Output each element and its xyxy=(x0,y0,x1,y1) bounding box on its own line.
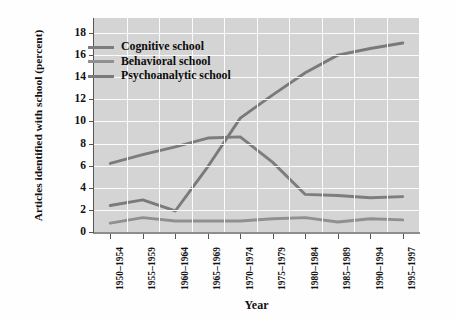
y-axis-tick-label: 10 xyxy=(56,115,86,127)
y-axis-tick-label: 0 xyxy=(56,226,86,238)
x-axis-tick xyxy=(175,234,176,239)
chart-legend: Cognitive schoolBehavioral schoolPsychoa… xyxy=(88,40,231,84)
y-axis-tick xyxy=(89,166,94,167)
x-axis-title: Year xyxy=(93,298,420,313)
gridline-horizontal xyxy=(94,33,419,34)
y-axis-title-wrap: Articles identified with school (percent… xyxy=(22,18,42,233)
y-axis-tick-label: 16 xyxy=(56,49,86,61)
x-axis-tick-label: 1990–1994 xyxy=(375,247,385,290)
gridline-horizontal xyxy=(94,210,419,211)
x-axis-tick-label: 1985–1989 xyxy=(342,247,352,290)
gridline-horizontal xyxy=(94,121,419,122)
gridline-horizontal xyxy=(94,99,419,100)
x-axis-tick-label: 1995–1997 xyxy=(407,247,417,290)
legend-label: Behavioral school xyxy=(121,56,210,68)
x-axis-tick xyxy=(110,234,111,239)
gridline-vertical xyxy=(289,18,290,232)
legend-item: Psychoanalytic school xyxy=(88,69,231,84)
y-axis-tick-label: 14 xyxy=(56,71,86,83)
y-axis-tick-label: 4 xyxy=(56,182,86,194)
y-axis-tick-label: 6 xyxy=(56,160,86,172)
gridline-horizontal xyxy=(94,166,419,167)
x-axis-tick xyxy=(403,234,404,239)
x-axis-tick-label: 1960–1964 xyxy=(180,247,190,290)
y-axis-tick-label: 12 xyxy=(56,93,86,105)
gridline-vertical xyxy=(387,18,388,232)
y-axis-tick-label: 18 xyxy=(56,27,86,39)
gridline-horizontal xyxy=(94,188,419,189)
legend-swatch-icon xyxy=(88,75,114,78)
x-axis-tick-label: 1955–1959 xyxy=(147,247,157,290)
y-axis-tick xyxy=(89,99,94,100)
x-axis-tick xyxy=(143,234,144,239)
y-axis-tick-label: 2 xyxy=(56,204,86,216)
x-axis-tick xyxy=(370,234,371,239)
y-axis-tick xyxy=(89,188,94,189)
chart-figure: 024681012141618 1950–19541955–19591960–1… xyxy=(0,0,456,321)
y-axis-title: Articles identified with school (percent… xyxy=(32,18,44,233)
x-axis-tick-label: 1950–1954 xyxy=(115,247,125,290)
gridline-vertical xyxy=(257,18,258,232)
legend-item: Behavioral school xyxy=(88,55,231,70)
gridline-vertical xyxy=(354,18,355,232)
legend-label: Cognitive school xyxy=(121,41,204,53)
x-axis-tick-label: 1965–1969 xyxy=(212,247,222,290)
x-axis-tick-label: 1975–1979 xyxy=(277,247,287,290)
x-axis-tick xyxy=(273,234,274,239)
x-axis-tick xyxy=(338,234,339,239)
legend-label: Psychoanalytic school xyxy=(121,70,231,82)
x-axis-tick xyxy=(305,234,306,239)
y-axis-tick xyxy=(89,210,94,211)
y-axis-tick xyxy=(89,121,94,122)
legend-swatch-icon xyxy=(88,60,114,63)
y-axis-tick xyxy=(89,33,94,34)
x-axis-tick xyxy=(240,234,241,239)
y-axis-tick xyxy=(89,232,94,233)
legend-item: Cognitive school xyxy=(88,40,231,55)
legend-swatch-icon xyxy=(88,46,114,49)
x-axis-tick-label: 1970–1974 xyxy=(245,247,255,290)
gridline-vertical xyxy=(322,18,323,232)
y-axis-tick-label: 8 xyxy=(56,138,86,150)
x-axis-tick-label: 1980–1984 xyxy=(310,247,320,290)
y-axis-tick xyxy=(89,144,94,145)
x-axis-tick xyxy=(208,234,209,239)
gridline-horizontal xyxy=(94,144,419,145)
